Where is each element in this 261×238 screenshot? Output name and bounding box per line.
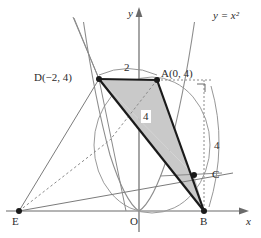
dot-point-b	[201, 208, 207, 214]
line-secant-upper-left	[73, 17, 99, 79]
measure-label-interior: 4	[141, 110, 151, 123]
dot-point-d	[96, 76, 102, 82]
label-curve-equation: y = x²	[213, 10, 239, 21]
dot-point-e	[16, 208, 22, 214]
label-point-b: B	[200, 216, 207, 227]
line-right-steep	[204, 22, 232, 211]
figure-canvas	[0, 0, 261, 238]
label-point-c: C	[212, 169, 219, 180]
measure-label-da: 2	[124, 62, 130, 73]
dashed-e-to-interior	[19, 140, 110, 211]
measure-label-right: 4	[214, 140, 220, 151]
y-axis-arrow	[136, 7, 143, 17]
line-e-d	[19, 79, 99, 211]
x-axis-arrow	[239, 208, 249, 215]
dot-point-a	[154, 77, 160, 83]
label-point-d: D(−2, 4)	[34, 72, 72, 83]
label-y-axis: y	[128, 8, 133, 19]
geometry-figure: D(−2, 4) A(0, 4) C B E O x y y = x² 2 4 …	[0, 0, 261, 238]
dot-point-c	[191, 172, 197, 178]
label-origin: O	[130, 216, 138, 227]
label-x-axis: x	[246, 216, 251, 227]
edge-d-a	[99, 79, 157, 80]
label-point-a: A(0, 4)	[161, 68, 193, 79]
label-point-e: E	[12, 216, 19, 227]
